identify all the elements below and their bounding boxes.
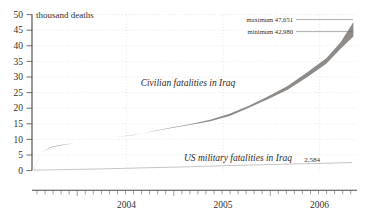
civilian-series-label: Civilian fatalities in Iraq bbox=[141, 78, 236, 88]
y-axis-label-25: 25 bbox=[14, 88, 24, 98]
us-military-fatalities-line bbox=[34, 163, 353, 171]
y-axis-label-10: 10 bbox=[14, 135, 24, 145]
fatalities-chart: 50 45 40 35 30 25 20 15 10 5 0 thousand … bbox=[0, 0, 365, 221]
y-axis-label-0: 0 bbox=[18, 166, 23, 176]
military-series-label: US military fatalities in Iraq bbox=[184, 153, 292, 163]
x-axis-minor-ticks bbox=[37, 190, 351, 196]
minimum-annotation-label: minimum 42,980 bbox=[248, 28, 294, 35]
x-axis-label-2004: 2004 bbox=[117, 200, 136, 210]
y-axis-label-35: 35 bbox=[14, 57, 24, 67]
civilian-fatalities-band bbox=[34, 22, 354, 171]
maximum-annotation-label: maximum 47,651 bbox=[246, 16, 293, 23]
y-axis-label-45: 45 bbox=[14, 25, 24, 35]
y-axis-unit-label: thousand deaths bbox=[36, 10, 94, 20]
y-axis-label-15: 15 bbox=[14, 119, 24, 129]
y-axis-label-20: 20 bbox=[14, 103, 24, 113]
x-axis-label-2005: 2005 bbox=[214, 200, 233, 210]
y-axis-labels: 50 45 40 35 30 25 20 15 10 5 0 bbox=[14, 10, 24, 176]
y-axis-label-40: 40 bbox=[14, 41, 24, 51]
military-end-value: 2,584 bbox=[304, 156, 320, 164]
y-axis-label-30: 30 bbox=[14, 72, 24, 82]
x-axis-labels: 2004 2005 2006 bbox=[117, 200, 329, 210]
gridlines-vertical bbox=[127, 15, 320, 171]
y-axis-ticks bbox=[27, 15, 33, 171]
x-axis-label-2006: 2006 bbox=[310, 200, 329, 210]
y-axis-label-50: 50 bbox=[14, 10, 24, 20]
chart-container: 50 45 40 35 30 25 20 15 10 5 0 thousand … bbox=[0, 0, 365, 221]
y-axis-label-5: 5 bbox=[18, 150, 23, 160]
